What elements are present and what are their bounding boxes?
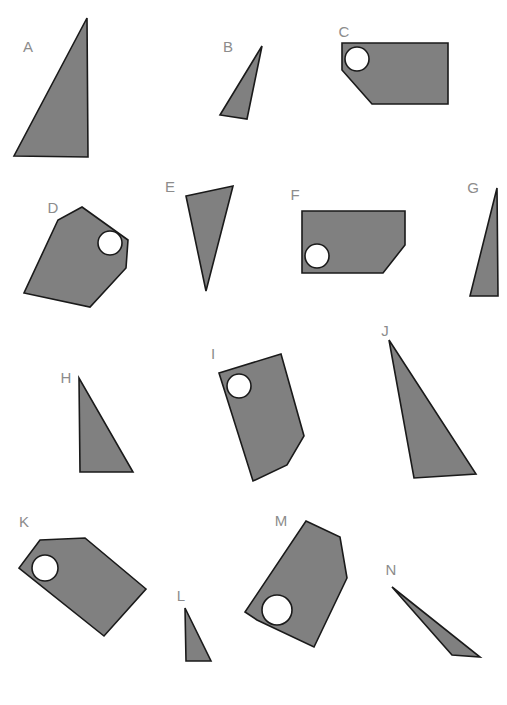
shape-h-label: H [61,369,72,386]
shape-c-label: C [339,23,350,40]
shape-k-hole-circle-icon [32,555,58,581]
shape-k-label: K [19,513,29,530]
shape-d-hole-circle-icon [98,231,122,255]
shape-l-label: L [177,587,185,604]
shape-f-hole-circle-icon [305,244,329,268]
shape-j-label: J [381,322,389,339]
shape-n-label: N [386,561,397,578]
shape-c-hole-circle-icon [345,47,369,71]
shape-f-label: F [290,186,299,203]
shape-g-label: G [467,179,479,196]
shapes-svg: ABCDEFGHIJKLMN [0,0,507,705]
shape-canvas-stage: ABCDEFGHIJKLMN [0,0,507,705]
shape-a-label: A [23,38,33,55]
shape-e-label: E [165,178,175,195]
shape-i-label: I [211,345,215,362]
shape-m-label: M [275,512,288,529]
shape-b-label: B [223,38,233,55]
shape-m-hole-circle-icon [262,595,292,625]
shape-i-hole-circle-icon [227,374,251,398]
shape-d-label: D [48,199,59,216]
